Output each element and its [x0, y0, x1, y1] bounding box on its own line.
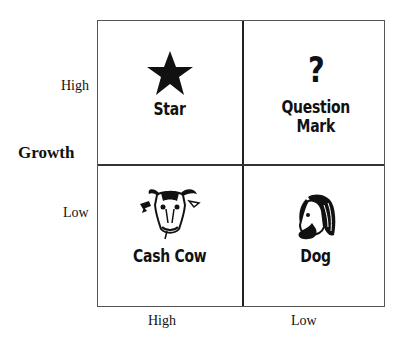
star-icon	[146, 50, 194, 96]
quadrant-label-dog: Dog	[301, 247, 331, 266]
quadrant-star: Star	[98, 21, 242, 164]
quadrant-label-star: Star	[154, 100, 186, 119]
question-mark-icon: ?	[308, 52, 325, 88]
x-tick-high: High	[148, 313, 176, 329]
quadrant-cash-cow: Cash Cow	[98, 166, 242, 309]
y-tick-high: High	[61, 78, 89, 94]
x-tick-low: Low	[291, 313, 317, 329]
quadrant-label-cash-cow: Cash Cow	[133, 247, 206, 266]
y-tick-low: Low	[63, 205, 89, 221]
quadrant-question-mark: ? Question Mark	[244, 21, 388, 164]
growth-axis-title: Growth	[18, 143, 74, 163]
cow-head-icon	[139, 185, 201, 241]
quadrant-dog: Dog	[244, 166, 388, 309]
dog-head-icon	[294, 193, 338, 241]
quadrant-label-question-mark: Question Mark	[282, 98, 351, 136]
matrix-grid: Star ? Question Mark	[97, 20, 385, 307]
